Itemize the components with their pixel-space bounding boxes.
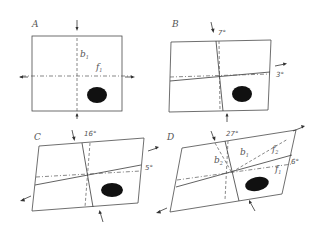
panel-a-label: A [31,19,39,29]
panel-c-blob [101,183,123,197]
panel-a-f1-label: f1 [95,62,103,73]
arrow-c-right-head [155,146,159,150]
panel-d-b1-axis [225,141,228,200]
panel-d-f1-label: f1 [274,164,282,175]
arrow-a-right-head [131,76,135,79]
arrow-d-top-head [212,137,216,142]
panel-c-angle-right: 5° [145,164,153,172]
arrow-b-right-head [283,63,287,67]
arrow-b-bottom-head [226,113,229,117]
panel-c-label: C [34,132,41,142]
arrow-a-left-head [19,76,23,79]
panel-b-label: B [171,19,179,29]
panel-b: B 7° 3° [169,19,287,112]
panel-b-angle-right: 3° [276,71,284,79]
deformation-diagram: A b1 f1 B 7° 3° C [0,0,324,227]
arrow-b-top-head [211,29,215,34]
panel-d-b1-label: b1 [240,147,249,158]
panel-d-angle-top: 27° [226,130,238,138]
arrow-a-top-head [76,27,79,31]
panel-d-b2-label: b2 [214,155,223,166]
panel-c-f-axis [36,171,141,177]
panel-d-label: D [166,132,174,142]
arrow-c-top-head [72,137,76,142]
arrow-d-left-head [156,210,161,214]
panel-c: C 16° 5° [20,113,159,222]
arrow-d-right [293,127,303,131]
panel-d-blob [244,175,270,194]
panel-d-b-line [225,141,239,201]
arrow-c-left-head [20,198,25,202]
panel-d: D 27° 6° b2 b1 f2 f1 [156,113,305,214]
panel-c-angle-top: 16° [84,130,96,138]
arrow-d-bottom [250,202,255,211]
panel-a: A b1 f1 [19,19,135,112]
panel-a-blob [87,87,107,103]
panel-d-angle-right: 6° [291,158,299,166]
panel-b-angle-top: 7° [218,29,226,37]
arrow-c-right [148,148,157,151]
panel-a-b1-label: b1 [80,49,89,60]
panel-b-blob [232,86,252,102]
arrow-c-bottom-head [99,210,103,214]
panel-c-frame [32,138,144,211]
arrow-a-bottom-head [76,113,79,117]
